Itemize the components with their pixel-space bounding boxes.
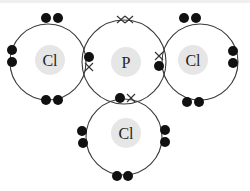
pcl3-diagram: Cl P Cl Cl xyxy=(0,0,250,191)
label-p: P xyxy=(122,54,131,71)
label-cl-left: Cl xyxy=(42,52,58,69)
label-cl-right: Cl xyxy=(185,52,201,69)
bond-pair-bottom xyxy=(115,93,135,103)
label-cl-bottom: Cl xyxy=(118,125,134,142)
